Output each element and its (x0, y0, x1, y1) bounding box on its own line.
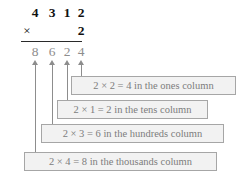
multiplication-diagram: 4 3 1 2 × 2 8 6 2 4 2 × 2 = 4 in the one… (0, 0, 250, 184)
connector-line-thousands (35, 64, 36, 154)
multiplicand-digit-tens: 1 (60, 6, 74, 20)
product-digit-tens: 2 (60, 45, 74, 59)
multiplication-operator-icon: × (20, 24, 34, 38)
multiplicand-digit-ones: 2 (74, 6, 88, 20)
multiplicand-digit-thousands: 4 (28, 6, 42, 20)
horizontal-rule (21, 41, 82, 42)
connector-line-hundreds (52, 64, 53, 126)
callout-hundreds-column: 2 × 3 = 6 in the hundreds column (41, 124, 224, 143)
multiplicand-digit-hundreds: 3 (45, 6, 59, 20)
connector-line-tens (67, 64, 68, 102)
callout-thousands-column: 2 × 4 = 8 in the thousands column (24, 152, 217, 171)
multiplier-digit: 2 (74, 24, 88, 38)
callout-ones-column: 2 × 2 = 4 in the ones column (71, 76, 236, 95)
product-digit-ones: 4 (74, 45, 88, 59)
callout-tens-column: 2 × 1 = 2 in the tens column (57, 100, 208, 119)
product-digit-thousands: 8 (28, 45, 42, 59)
product-digit-hundreds: 6 (45, 45, 59, 59)
